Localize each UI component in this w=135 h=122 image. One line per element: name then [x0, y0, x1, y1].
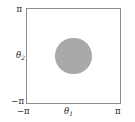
y-axis-tick-min: −π — [11, 97, 24, 106]
figure-plot: π θ2 −π −π θ1 π — [0, 0, 135, 122]
y-axis-label: θ2 — [16, 51, 25, 60]
x-axis-tick-max: π — [115, 107, 121, 116]
plot-area — [26, 8, 121, 104]
y-axis-label-subscript: 2 — [21, 54, 25, 61]
x-axis-label: θ1 — [64, 107, 73, 116]
shaded-disc-region — [55, 38, 91, 75]
x-axis-tick-min: −π — [17, 107, 30, 116]
x-axis-label-subscript: 1 — [69, 110, 73, 117]
y-axis-tick-max: π — [16, 5, 22, 14]
